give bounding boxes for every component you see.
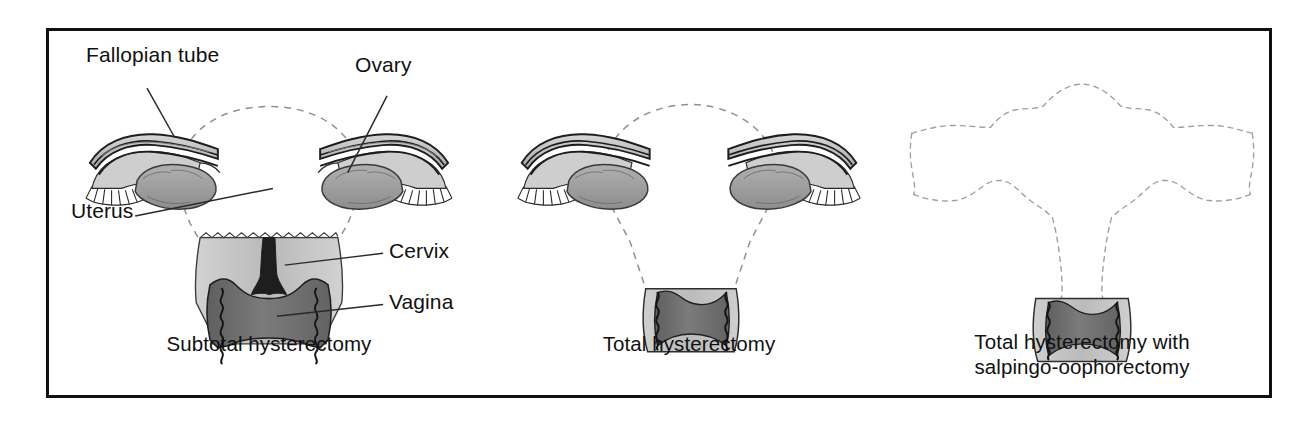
label-uterus: Uterus xyxy=(71,199,133,223)
right-adnexa xyxy=(318,134,452,209)
label-ovary: Ovary xyxy=(355,53,412,77)
panel-total-hysterectomy: Total hysterectomy xyxy=(489,31,889,395)
caption-line-2: salpingo-oophorectomy xyxy=(889,354,1275,379)
caption-total-hysterectomy-bso: Total hysterectomy with salpingo-oophore… xyxy=(889,329,1275,379)
label-fallopian-tube: Fallopian tube xyxy=(86,43,219,67)
label-cervix: Cervix xyxy=(389,239,449,263)
hysterectomy-figure: Fallopian tube Ovary Uterus Cervix Vagin… xyxy=(0,0,1310,424)
removed-organs-dashed-outline xyxy=(910,84,1253,298)
figure-frame: Fallopian tube Ovary Uterus Cervix Vagin… xyxy=(46,28,1272,398)
leader-fallopian-tube xyxy=(147,88,175,137)
right-ovary xyxy=(322,164,403,209)
caption-total-hysterectomy: Total hysterectomy xyxy=(489,331,889,356)
caption-subtotal-hysterectomy: Subtotal hysterectomy xyxy=(49,331,489,356)
panel-total-hysterectomy-with-salpingo-oophorectomy: Total hysterectomy with salpingo-oophore… xyxy=(889,31,1275,395)
left-adnexa xyxy=(86,134,220,209)
right-ovary xyxy=(730,164,811,209)
caption-line-1: Total hysterectomy with xyxy=(889,329,1275,354)
left-ovary xyxy=(567,164,648,209)
label-vagina: Vagina xyxy=(389,290,453,314)
left-adnexa xyxy=(518,134,650,209)
right-adnexa xyxy=(728,134,860,209)
panel-subtotal-hysterectomy: Fallopian tube Ovary Uterus Cervix Vagin… xyxy=(49,31,489,395)
